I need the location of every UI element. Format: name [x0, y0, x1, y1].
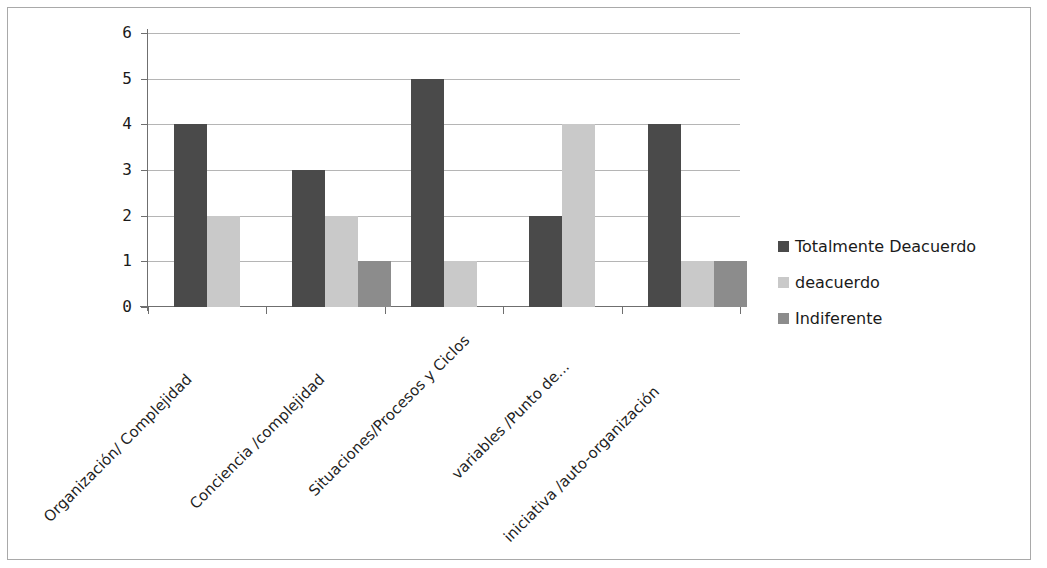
y-tick-mark [141, 79, 148, 80]
y-tick-label: 3 [104, 160, 132, 179]
legend-label: deacuerdo [795, 273, 880, 292]
bar [444, 261, 477, 307]
bar [174, 124, 207, 307]
y-tick-label: 6 [104, 23, 132, 42]
x-tick-mark [622, 306, 623, 314]
bar [411, 79, 444, 307]
bar [648, 124, 681, 307]
legend-item[interactable]: Totalmente Deacuerdo [778, 228, 1018, 264]
x-tick-mark [266, 306, 267, 314]
legend-swatch-icon [778, 313, 789, 324]
bar [529, 216, 562, 307]
bar [207, 216, 240, 307]
y-tick-label: 1 [104, 251, 132, 270]
x-axis-category-label: Situaciones/Procesos y Ciclos [305, 331, 473, 499]
x-tick-mark [503, 306, 504, 314]
bar-chart: 6543210 Organización/ ComplejidadConcien… [0, 0, 1047, 568]
x-tick-mark [740, 306, 741, 314]
bar [292, 170, 325, 307]
y-tick-label: 5 [104, 69, 132, 88]
x-axis-category-label: Conciencia /complejidad [186, 370, 328, 512]
y-tick-label: 2 [104, 206, 132, 225]
legend-item[interactable]: deacuerdo [778, 264, 1018, 300]
bar [358, 261, 391, 307]
y-tick-mark [141, 170, 148, 171]
y-tick-label: 0 [104, 297, 132, 316]
bar [714, 261, 747, 307]
plot-area [148, 33, 740, 307]
x-tick-mark [385, 306, 386, 314]
legend-label: Indiferente [795, 309, 882, 328]
legend-swatch-icon [778, 241, 789, 252]
x-axis-category-label: Organización/ Complejidad [40, 370, 195, 525]
bar [562, 124, 595, 307]
x-tick-mark [148, 306, 149, 314]
y-tick-mark [141, 124, 148, 125]
legend-item[interactable]: Indiferente [778, 300, 1018, 336]
y-tick-mark [141, 307, 148, 308]
legend-swatch-icon [778, 277, 789, 288]
bar [325, 216, 358, 307]
legend-label: Totalmente Deacuerdo [795, 237, 976, 256]
y-tick-mark [141, 261, 148, 262]
x-axis-category-label: variables /Punto de... [448, 358, 573, 483]
chart-legend: Totalmente DeacuerdodeacuerdoIndiferente [778, 228, 1018, 336]
bar [681, 261, 714, 307]
y-tick-label: 4 [104, 114, 132, 133]
y-tick-mark [141, 216, 148, 217]
y-tick-mark [141, 33, 148, 34]
